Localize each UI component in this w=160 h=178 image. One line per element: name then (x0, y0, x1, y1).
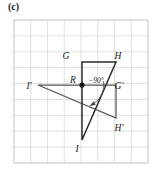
rotation-arrowhead-icon (89, 101, 95, 106)
vertex-label-H-prime: H′ (114, 123, 125, 133)
geometry-figure-panel-c: (c) R −90° G H I I′ G′ H′ (0, 0, 160, 178)
vertex-label-H: H (114, 51, 123, 61)
rotation-angle-label: −90° (88, 76, 104, 85)
rotation-diagram: R −90° G H I I′ G′ H′ (0, 0, 160, 178)
vertex-label-I-prime: I′ (25, 81, 32, 91)
grid-vertical-lines (14, 20, 148, 163)
preimage-triangle-GHI (82, 62, 116, 140)
center-of-rotation-dot-icon (79, 82, 84, 87)
vertex-label-G: G (63, 51, 70, 61)
vertex-label-R: R (69, 75, 76, 85)
coordinate-grid (14, 20, 148, 163)
vertex-label-G-prime: G′ (115, 81, 125, 91)
vertex-label-I: I (74, 144, 79, 154)
